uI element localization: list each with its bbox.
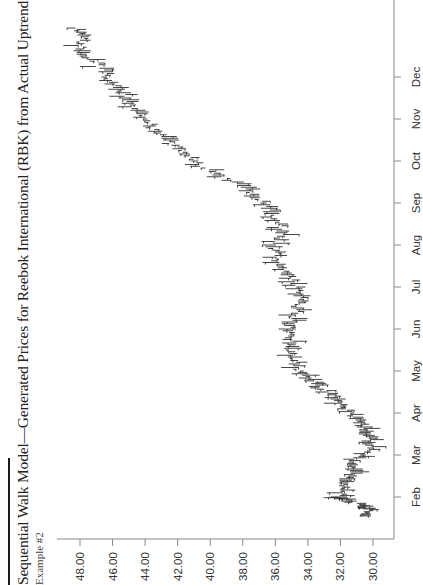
month-tick-label: Nov (410, 109, 422, 130)
month-tick-label: Dec (410, 67, 422, 88)
price-tick-label: 34.00 (302, 552, 314, 581)
month-tick-label: Aug (410, 235, 422, 255)
price-bars (63, 28, 386, 518)
price-tick-label: 40.00 (204, 552, 216, 581)
price-tick-label: 30.00 (367, 552, 379, 581)
price-tick-label: 42.00 (172, 552, 184, 581)
price-tick-label: 46.00 (107, 552, 119, 581)
month-tick-label: Sep (410, 193, 422, 213)
price-tick-label: 48.00 (74, 552, 86, 581)
time-axis-ticks: FebMarAprMayJunJulAugSepOctNovDec (394, 67, 422, 507)
price-chart: 48.0046.0044.0042.0040.0038.0036.0034.00… (0, 0, 423, 585)
month-tick-label: Mar (410, 445, 422, 465)
price-tick-label: 38.00 (237, 552, 249, 581)
month-tick-label: Jul (410, 280, 422, 295)
price-tick-label: 44.00 (139, 552, 151, 581)
price-tick-label: 32.00 (334, 552, 346, 581)
month-tick-label: Oct (410, 151, 422, 170)
month-tick-label: Feb (410, 487, 422, 507)
price-axis-ticks: 48.0046.0044.0042.0040.0038.0036.0034.00… (74, 539, 379, 581)
month-tick-label: May (410, 360, 422, 382)
price-tick-label: 36.00 (269, 552, 281, 581)
month-tick-label: Jun (410, 320, 422, 339)
month-tick-label: Apr (410, 404, 422, 422)
